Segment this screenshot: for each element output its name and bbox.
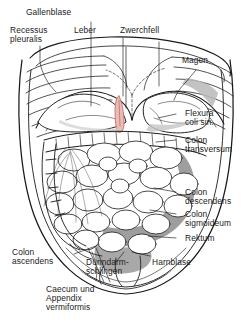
anatomy-figure xyxy=(0,0,252,325)
label-leber: Leber xyxy=(74,26,96,36)
label-caecum-line3: vermiformis xyxy=(46,303,90,313)
label-colon-descendens-line2: descendens xyxy=(185,197,231,207)
label-magen: Magen xyxy=(182,56,208,66)
label-colon-ascendens-line2: ascendens xyxy=(12,257,53,267)
label-colon-sigmoideum-line2: sigmoideum xyxy=(185,219,231,229)
label-flexura-coli-line2: coli sin. xyxy=(185,118,214,128)
label-rektum: Rektum xyxy=(185,234,214,244)
label-gallenblase: Gallenblase xyxy=(26,8,71,18)
label-zwerchfell: Zwerchfell xyxy=(120,26,159,36)
label-duenndarmschlingen-line2: schlingen xyxy=(86,267,122,277)
label-colon-transversum-line2: transversum xyxy=(185,145,232,155)
label-recessus-pleuralis-line2: pleuralis xyxy=(10,35,42,45)
label-harnblase: Harnblase xyxy=(152,258,191,268)
